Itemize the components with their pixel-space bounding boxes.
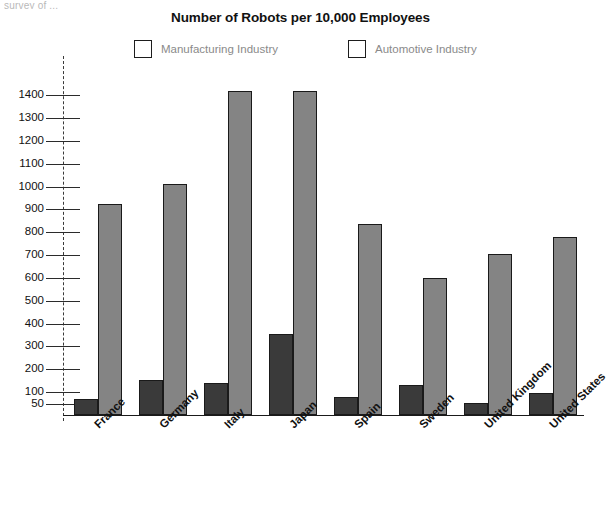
y-tick-500 [46, 301, 80, 302]
bar-united-states-automotive [553, 237, 577, 415]
y-tick-label-500: 500 [0, 295, 44, 306]
bar-united-states-manufacturing [529, 393, 553, 415]
bar-france-automotive [98, 204, 122, 415]
bar-germany-manufacturing [139, 380, 163, 415]
y-tick-label-300: 300 [0, 340, 44, 351]
y-tick-400 [46, 324, 80, 325]
y-tick-800 [46, 232, 80, 233]
y-tick-label-1200: 1200 [0, 135, 44, 146]
y-axis-line [63, 56, 64, 421]
y-tick-label-1100: 1100 [0, 158, 44, 169]
y-tick-label-1000: 1000 [0, 181, 44, 192]
bar-united-kingdom-automotive [488, 254, 512, 415]
bar-sweden-manufacturing [399, 385, 423, 415]
y-tick-1300 [46, 118, 80, 119]
y-tick-label-200: 200 [0, 363, 44, 374]
bar-italy-manufacturing [204, 383, 228, 415]
y-tick-700 [46, 255, 80, 256]
y-tick-600 [46, 278, 80, 279]
bar-italy-automotive [228, 91, 252, 415]
bar-germany-automotive [163, 184, 187, 415]
y-tick-100 [46, 392, 80, 393]
y-tick-1100 [46, 164, 80, 165]
bar-japan-automotive [293, 91, 317, 415]
y-tick-300 [46, 346, 80, 347]
bar-united-kingdom-manufacturing [464, 403, 488, 415]
y-tick-label-900: 900 [0, 203, 44, 214]
y-tick-label-100: 100 [0, 386, 44, 397]
y-tick-label-1300: 1300 [0, 112, 44, 123]
y-tick-label-700: 700 [0, 249, 44, 260]
y-tick-label-600: 600 [0, 272, 44, 283]
y-tick-label-800: 800 [0, 226, 44, 237]
bar-spain-automotive [358, 224, 382, 415]
y-tick-1000 [46, 187, 80, 188]
bar-japan-manufacturing [269, 334, 293, 415]
y-tick-1200 [46, 141, 80, 142]
y-tick-label-1400: 1400 [0, 89, 44, 100]
bar-spain-manufacturing [334, 397, 358, 415]
x-axis-line [63, 415, 584, 416]
y-tick-200 [46, 369, 80, 370]
y-tick-label-50: 50 [0, 398, 44, 409]
y-tick-1400 [46, 95, 80, 96]
y-tick-900 [46, 209, 80, 210]
bar-france-manufacturing [74, 399, 98, 415]
y-tick-label-400: 400 [0, 318, 44, 329]
